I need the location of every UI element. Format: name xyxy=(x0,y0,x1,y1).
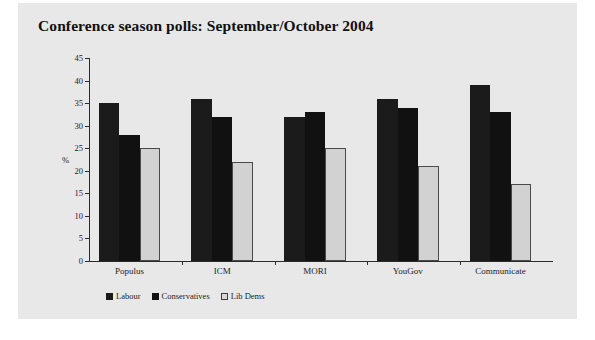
bar-labour xyxy=(99,103,120,261)
chart-title: Conference season polls: September/Octob… xyxy=(38,17,374,35)
y-tick-label: 0 xyxy=(79,256,83,266)
bar-conservatives xyxy=(398,108,419,261)
legend-label: Conservatives xyxy=(162,291,210,301)
x-axis-label: Communicate xyxy=(475,266,526,276)
y-tick-label: 25 xyxy=(75,143,84,153)
bar-lib-dems xyxy=(140,148,161,261)
bar-group xyxy=(460,58,553,261)
y-axis-title: % xyxy=(62,155,69,165)
legend-item-lib-dems[interactable]: Lib Dems xyxy=(221,291,265,301)
legend-label: Labour xyxy=(116,291,141,301)
x-axis-tick xyxy=(182,261,183,265)
y-tick-label: 20 xyxy=(75,166,84,176)
x-axis-tick xyxy=(367,261,368,265)
chart-figure: Conference season polls: September/Octob… xyxy=(18,3,577,319)
y-tick-label: 15 xyxy=(75,188,84,198)
plot-area: 051015202530354045 PopulusICMMORIYouGovC… xyxy=(89,58,553,262)
bar-lib-dems xyxy=(325,148,346,261)
y-tick-mark xyxy=(85,261,90,262)
legend-label: Lib Dems xyxy=(231,291,265,301)
bar-conservatives xyxy=(490,112,511,261)
chart-legend: LabourConservativesLib Dems xyxy=(106,291,264,301)
x-axis-line xyxy=(89,261,553,262)
bar-labour xyxy=(377,99,398,261)
x-axis-label: ICM xyxy=(214,266,231,276)
y-tick-label: 5 xyxy=(79,233,83,243)
bar-lib-dems xyxy=(418,166,439,261)
bar-lib-dems xyxy=(511,184,532,261)
x-axis-tick xyxy=(275,261,276,265)
bar-labour xyxy=(470,85,491,261)
bar-group xyxy=(182,58,275,261)
bar-group xyxy=(367,58,460,261)
y-tick-label: 40 xyxy=(75,76,84,86)
x-axis-label: YouGov xyxy=(393,266,423,276)
x-axis-tick xyxy=(460,261,461,265)
bar-conservatives xyxy=(119,135,140,261)
legend-item-labour[interactable]: Labour xyxy=(106,291,141,301)
legend-item-conservatives[interactable]: Conservatives xyxy=(152,291,210,301)
bar-labour xyxy=(284,117,305,261)
bar-group xyxy=(89,58,182,261)
y-tick-label: 35 xyxy=(75,98,84,108)
bar-labour xyxy=(191,99,212,261)
legend-swatch-icon xyxy=(106,293,113,300)
y-tick-label: 30 xyxy=(75,121,84,131)
y-tick-label: 10 xyxy=(75,211,84,221)
bar-conservatives xyxy=(212,117,233,261)
x-axis-label: MORI xyxy=(303,266,327,276)
bar-conservatives xyxy=(305,112,326,261)
bar-lib-dems xyxy=(232,162,253,261)
x-axis-label: Populus xyxy=(115,266,144,276)
bar-group xyxy=(275,58,368,261)
legend-swatch-icon xyxy=(152,293,159,300)
legend-swatch-icon xyxy=(221,293,228,300)
y-tick-label: 45 xyxy=(75,53,84,63)
